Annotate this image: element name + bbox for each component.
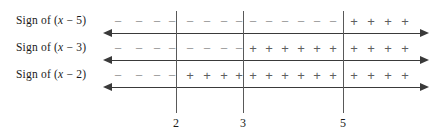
divider-line-5 — [343, 11, 344, 113]
sign-plus: + — [247, 69, 259, 83]
sign-plus: + — [399, 69, 411, 83]
sign-plus: + — [295, 69, 307, 83]
sign-row-x-minus-5: −−−−−−−−−−−−−−++++ — [0, 15, 446, 29]
sign-minus: − — [295, 15, 307, 29]
sign-plus: + — [399, 15, 411, 29]
sign-plus: + — [348, 69, 360, 83]
sign-plus: + — [247, 42, 259, 56]
sign-plus: + — [327, 69, 339, 83]
sign-minus: − — [247, 15, 259, 29]
number-line-axis-1 — [103, 29, 429, 38]
number-line-axis-2 — [103, 56, 429, 65]
sign-minus: − — [327, 15, 339, 29]
sign-plus: + — [365, 15, 377, 29]
sign-minus: − — [184, 42, 196, 56]
arrowhead-right-icon — [420, 83, 429, 91]
sign-minus: − — [133, 15, 145, 29]
sign-plus: + — [382, 69, 394, 83]
sign-plus: + — [295, 42, 307, 56]
divider-line-2 — [176, 11, 177, 113]
sign-minus: − — [151, 42, 163, 56]
sign-chart-figure: Sign of (x − 5) −−−−−−−−−−−−−−++++ Sign … — [0, 0, 446, 137]
sign-plus: + — [327, 42, 339, 56]
sign-plus: + — [201, 69, 213, 83]
sign-plus: + — [184, 69, 196, 83]
sign-minus: − — [263, 15, 275, 29]
divider-line-3 — [243, 11, 244, 113]
sign-minus: − — [279, 15, 291, 29]
sign-plus: + — [218, 69, 230, 83]
arrowhead-right-icon — [420, 29, 429, 37]
sign-minus: − — [133, 69, 145, 83]
axis-shaft — [110, 33, 422, 34]
sign-minus: − — [218, 15, 230, 29]
sign-minus: − — [184, 15, 196, 29]
tick-label-3: 3 — [235, 116, 251, 131]
sign-minus: − — [112, 15, 124, 29]
sign-minus: − — [151, 69, 163, 83]
sign-plus: + — [365, 69, 377, 83]
tick-label-5: 5 — [335, 116, 351, 131]
sign-minus: − — [218, 42, 230, 56]
sign-plus: + — [348, 42, 360, 56]
sign-plus: + — [382, 42, 394, 56]
sign-plus: + — [279, 42, 291, 56]
sign-plus: + — [263, 69, 275, 83]
axis-shaft — [110, 60, 422, 61]
sign-minus: − — [151, 15, 163, 29]
sign-minus: − — [112, 42, 124, 56]
axis-shaft — [110, 87, 422, 88]
sign-minus: − — [112, 69, 124, 83]
sign-minus: − — [133, 42, 145, 56]
sign-minus: − — [201, 15, 213, 29]
number-line-axis-3 — [103, 83, 429, 92]
sign-plus: + — [365, 42, 377, 56]
sign-plus: + — [382, 15, 394, 29]
sign-plus: + — [311, 42, 323, 56]
sign-plus: + — [279, 69, 291, 83]
tick-label-2: 2 — [168, 116, 184, 131]
sign-plus: + — [311, 69, 323, 83]
sign-plus: + — [348, 15, 360, 29]
sign-row-x-minus-3: −−−−−−−−++++++++++ — [0, 42, 446, 56]
sign-plus: + — [399, 42, 411, 56]
arrowhead-right-icon — [420, 56, 429, 64]
sign-minus: − — [201, 42, 213, 56]
sign-plus: + — [263, 42, 275, 56]
sign-minus: − — [311, 15, 323, 29]
sign-row-x-minus-2: −−−−++++++++++++++ — [0, 69, 446, 83]
